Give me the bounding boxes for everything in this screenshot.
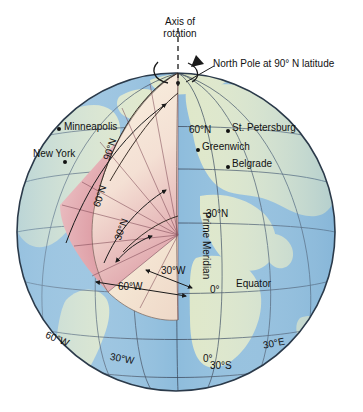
city-dot bbox=[196, 148, 200, 152]
axis-label-line2: rotation bbox=[150, 28, 210, 39]
graticule-label-prime-meridian: Prime Meridian bbox=[201, 212, 212, 279]
city-label: St. Petersburg bbox=[232, 122, 296, 133]
north-pole-marker bbox=[176, 81, 180, 85]
graticule-label-lat-30s: 30°S bbox=[210, 360, 232, 371]
city-label: Minneapolis bbox=[64, 121, 117, 132]
city-dot bbox=[226, 165, 230, 169]
graticule-label-equator: Equator bbox=[236, 278, 271, 289]
city-label: Greenwich bbox=[202, 141, 250, 152]
rotation-arrowhead bbox=[191, 55, 204, 67]
city-label: Belgrade bbox=[232, 158, 272, 169]
globe-figure: Axis of rotation North Pole at 90° N lat… bbox=[0, 0, 363, 412]
wedge-label-arc-30w: 30°W bbox=[161, 265, 186, 276]
city-label: New York bbox=[33, 148, 75, 159]
wedge-label-arc-60w: 60°W bbox=[118, 281, 143, 292]
north-pole-callout: North Pole at 90° N latitude bbox=[213, 58, 334, 69]
graticule-label-lat-60n-surface: 60°N bbox=[189, 124, 211, 135]
graticule-label-lat-0-surface: 0° bbox=[210, 284, 220, 295]
city-dot bbox=[63, 160, 67, 164]
axis-label-line1: Axis of bbox=[150, 16, 210, 27]
city-dot bbox=[57, 127, 61, 131]
city-dot bbox=[226, 129, 230, 133]
